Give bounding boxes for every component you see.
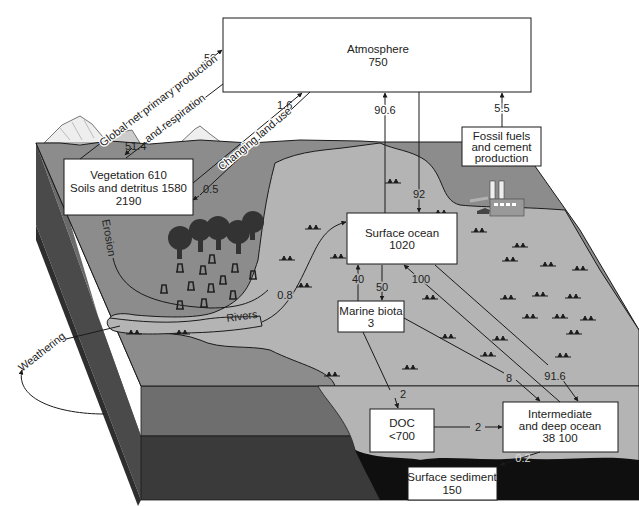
flux-fossil: 5.5 — [494, 102, 509, 114]
marine-biota-value: 3 — [368, 317, 374, 329]
flux-surface-to-biota: 50 — [376, 281, 388, 293]
marine-biota-label: Marine biota — [339, 305, 403, 317]
flux-biota-to-surface: 40 — [352, 273, 364, 285]
weathering-label: Weathering — [16, 330, 68, 374]
atmosphere-label: Atmosphere — [347, 43, 409, 55]
doc-value: <700 — [389, 430, 415, 442]
flux-rivers: 0.8 — [277, 289, 292, 301]
land-reservoir-box: Vegetation 610 Soils and detritus 1580 2… — [64, 159, 193, 215]
surface-ocean-box: Surface ocean 1020 — [347, 213, 457, 264]
flux-deep-to-surface: 100 — [412, 273, 430, 285]
land-total: 2190 — [116, 195, 142, 207]
soils-label: Soils and detritus 1580 — [70, 182, 187, 194]
flux-ocean-to-atm: 90.6 — [374, 104, 395, 116]
flux-land-use-down: 0.5 — [203, 183, 218, 195]
flux-biota-to-deep: 8 — [506, 372, 512, 384]
deep-ocean-line2: and deep ocean — [519, 420, 602, 432]
marine-biota-box: Marine biota 3 — [338, 301, 404, 332]
deep-ocean-box: Intermediate and deep ocean 38 100 — [503, 402, 618, 452]
flux-atm-to-ocean: 92 — [413, 188, 425, 200]
doc-box: DOC <700 — [370, 409, 434, 452]
surface-ocean-value: 1020 — [389, 239, 415, 251]
sediment-label: Surface sediment — [407, 471, 497, 483]
fossil-fuels-box: Fossil fuels and cement production — [462, 127, 541, 166]
flux-surface-to-deep: 91.6 — [544, 370, 565, 382]
deep-ocean-value: 38 100 — [542, 432, 577, 444]
deep-ocean-line1: Intermediate — [528, 408, 592, 420]
sediment-value: 150 — [442, 484, 461, 496]
flux-doc-to-deep: 2 — [475, 421, 481, 433]
flux-deep-to-sediment: 0.2 — [515, 452, 530, 464]
doc-label: DOC — [389, 417, 415, 429]
flux-npp-down: 51.4 — [125, 140, 146, 152]
vegetation-label: Vegetation 610 — [90, 169, 167, 181]
sediment-box: Surface sediment 150 — [407, 467, 497, 500]
flux-biota-to-doc: 2 — [400, 388, 406, 400]
fossil-line3: production — [475, 152, 529, 164]
atmosphere-box: Atmosphere 750 — [223, 18, 531, 92]
surface-ocean-label: Surface ocean — [365, 227, 439, 239]
carbon-cycle-diagram: Atmosphere 750 Vegetation 610 Soils and … — [0, 0, 639, 506]
atmosphere-value: 750 — [368, 56, 387, 68]
